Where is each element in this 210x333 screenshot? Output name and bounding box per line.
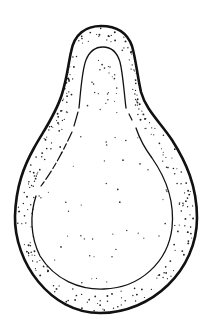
inner-boundary-apex: [79, 47, 126, 108]
pear-shaped-drawing: [0, 0, 210, 333]
inner-boundary-lower: [32, 128, 173, 289]
inner-boundary-dash-right: [129, 114, 132, 120]
stipple-dots: [17, 28, 194, 312]
outer-wall-outline: [15, 26, 197, 313]
figure-canvas: [0, 0, 210, 333]
inner-boundary-dash-left: [74, 112, 78, 126]
